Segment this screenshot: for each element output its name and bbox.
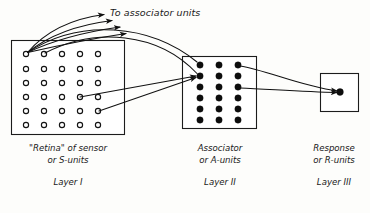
a-unit <box>235 62 241 68</box>
a-unit <box>216 95 222 101</box>
layer-1-line-2: or S-units <box>3 155 133 167</box>
a-unit <box>197 106 203 112</box>
s-unit <box>95 122 100 127</box>
s-unit <box>59 66 64 71</box>
layer-2-line-2: or A-units <box>179 155 261 167</box>
a-unit <box>216 62 222 68</box>
a-unit <box>235 73 241 79</box>
s-unit <box>77 51 82 56</box>
s-unit <box>95 80 100 85</box>
s-unit <box>41 66 46 71</box>
a-unit <box>197 95 203 101</box>
s-unit <box>23 122 28 127</box>
layer-3-line-1: Response <box>299 143 369 155</box>
s-unit <box>23 66 28 71</box>
a-unit <box>235 95 241 101</box>
s-unit <box>23 108 28 113</box>
s-unit <box>59 108 64 113</box>
layer-2-line-1: Associator <box>179 143 261 155</box>
s-unit <box>23 80 28 85</box>
a-unit <box>216 73 222 79</box>
layer-3-line-2: or R-units <box>299 155 369 167</box>
s-unit <box>59 122 64 127</box>
layer-1-label-group: "Retina" of sensor or S-units Layer I <box>3 143 133 189</box>
s-unit <box>77 80 82 85</box>
s-unit <box>77 122 82 127</box>
layer-3-name: Layer III <box>299 177 369 189</box>
s-unit <box>95 66 100 71</box>
layer-1-line-1: "Retina" of sensor <box>3 143 133 155</box>
s-unit <box>95 94 100 99</box>
a-unit <box>235 117 241 123</box>
a-unit <box>197 84 203 90</box>
s-unit <box>41 94 46 99</box>
s-unit <box>95 51 100 56</box>
s-unit <box>59 80 64 85</box>
layer-2-label-group: Associator or A-units Layer II <box>179 143 261 189</box>
s-unit <box>77 108 82 113</box>
caption-to-associator-units: To associator units <box>110 7 200 18</box>
s-unit <box>41 108 46 113</box>
s-unit <box>59 94 64 99</box>
a-unit <box>216 84 222 90</box>
a-unit <box>216 106 222 112</box>
s-unit <box>23 94 28 99</box>
s-unit <box>41 122 46 127</box>
a-unit <box>235 106 241 112</box>
r-unit <box>337 89 344 96</box>
a-unit <box>197 73 203 79</box>
a-unit <box>216 117 222 123</box>
layer-3-label-group: Response or R-units Layer III <box>299 143 369 189</box>
perceptron-diagram: To associator units "Retina" of sensor o… <box>0 0 370 213</box>
layer-3-units <box>337 89 344 96</box>
s-unit <box>77 66 82 71</box>
s-unit <box>59 51 64 56</box>
a-unit <box>197 62 203 68</box>
layer-2-name: Layer II <box>179 177 261 189</box>
s-unit <box>41 80 46 85</box>
a-unit <box>235 84 241 90</box>
a-unit <box>197 117 203 123</box>
layer-1-name: Layer I <box>3 177 133 189</box>
